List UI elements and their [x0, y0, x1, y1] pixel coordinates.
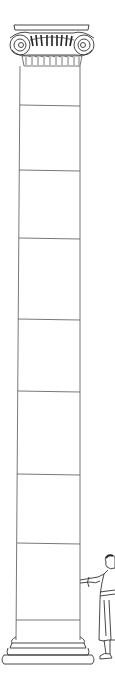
drum-joint [18, 391, 80, 392]
figure-legs [104, 640, 110, 654]
base-torus-middle [7, 648, 89, 655]
drum-joint [17, 543, 80, 544]
plinth [2, 655, 94, 664]
drum-joint [17, 474, 80, 475]
column-illustration: Ionic column with human figure for scale [0, 0, 115, 680]
right-volute [74, 35, 94, 55]
drum-joint [19, 238, 80, 239]
left-volute [10, 35, 30, 55]
egg-and-dart [30, 35, 74, 46]
base-torus-upper [12, 637, 85, 643]
ionic-capital [10, 25, 94, 66]
base-step [10, 643, 86, 648]
drum-joint [18, 319, 80, 320]
figure-robe [99, 574, 115, 641]
drum-joint [19, 170, 80, 171]
abacus [14, 25, 89, 30]
shaft-left-edge [16, 66, 20, 640]
figure-foot [100, 653, 112, 659]
human-figure [80, 555, 115, 659]
column-base [2, 637, 94, 664]
column-shaft [16, 66, 80, 640]
necking-flutes [22, 56, 82, 66]
column-drawing [0, 0, 115, 680]
drum-joint [20, 105, 80, 106]
